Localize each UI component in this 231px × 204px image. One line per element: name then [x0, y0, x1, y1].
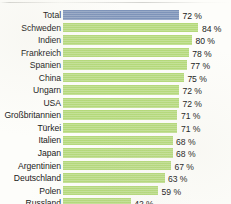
category-label: Türkei [0, 122, 61, 135]
category-label: Argentinien [0, 160, 61, 173]
chart-row: Spanien77 % [0, 59, 231, 72]
category-label: Polen [0, 185, 61, 198]
chart-row: Großbritannien71 % [0, 109, 231, 122]
bar-value-label: 42 % [134, 198, 153, 204]
bar [63, 136, 173, 146]
bar-track: 72 % [63, 10, 223, 20]
category-label: USA [0, 97, 61, 110]
category-label: Russland [0, 197, 61, 204]
bar [63, 60, 187, 70]
chart-row: Russland42 % [0, 197, 231, 204]
bar [63, 186, 158, 196]
bar [63, 148, 173, 158]
chart-rows-container: Total72 %Schweden84 %Indien80 %Frankreic… [0, 9, 231, 204]
chart-row: Italien68 % [0, 134, 231, 147]
bar-track: 63 % [63, 173, 223, 183]
category-label: Frankreich [0, 47, 61, 60]
bar [63, 73, 184, 83]
chart-row: USA72 % [0, 97, 231, 110]
category-label: Deutschland [0, 172, 61, 185]
category-label: Ungarn [0, 84, 61, 97]
chart-row: Schweden84 % [0, 22, 231, 35]
category-label: Total [0, 9, 61, 22]
bar-track: 84 % [63, 23, 223, 33]
bar-track: 68 % [63, 136, 223, 146]
bar [63, 23, 198, 33]
bar-track: 42 % [63, 198, 223, 204]
chart-row: Türkei71 % [0, 122, 231, 135]
category-label: Großbritannien [0, 109, 61, 122]
category-label: Italien [0, 134, 61, 147]
bar [63, 161, 171, 171]
bar-track: 59 % [63, 186, 223, 196]
chart-row: Argentinien67 % [0, 160, 231, 173]
bar [63, 85, 179, 95]
chart-row: Japan68 % [0, 147, 231, 160]
bar [63, 48, 189, 58]
scan-artifact-line [0, 2, 231, 3]
bar-track: 78 % [63, 48, 223, 58]
bar [63, 123, 177, 133]
bar-track: 71 % [63, 123, 223, 133]
bar-track: 71 % [63, 110, 223, 120]
category-label: Spanien [0, 59, 61, 72]
chart-row: Ungarn72 % [0, 84, 231, 97]
bar-track: 77 % [63, 60, 223, 70]
bar-track: 75 % [63, 73, 223, 83]
category-label: Schweden [0, 22, 61, 35]
chart-row: Deutschland63 % [0, 172, 231, 185]
bar-track: 67 % [63, 161, 223, 171]
bar [63, 198, 131, 204]
bar-highlight [63, 10, 179, 20]
bar [63, 35, 192, 45]
bar-track: 72 % [63, 85, 223, 95]
bar-track: 72 % [63, 98, 223, 108]
category-label: Indien [0, 34, 61, 47]
bar [63, 173, 165, 183]
chart-row: Total72 % [0, 9, 231, 22]
bar [63, 98, 179, 108]
chart-row: China75 % [0, 72, 231, 85]
horizontal-bar-chart: Total72 %Schweden84 %Indien80 %Frankreic… [0, 0, 231, 204]
bar-track: 80 % [63, 35, 223, 45]
chart-row: Frankreich78 % [0, 47, 231, 60]
chart-row: Polen59 % [0, 185, 231, 198]
chart-row: Indien80 % [0, 34, 231, 47]
category-label: Japan [0, 147, 61, 160]
category-label: China [0, 72, 61, 85]
bar-track: 68 % [63, 148, 223, 158]
bar [63, 110, 177, 120]
